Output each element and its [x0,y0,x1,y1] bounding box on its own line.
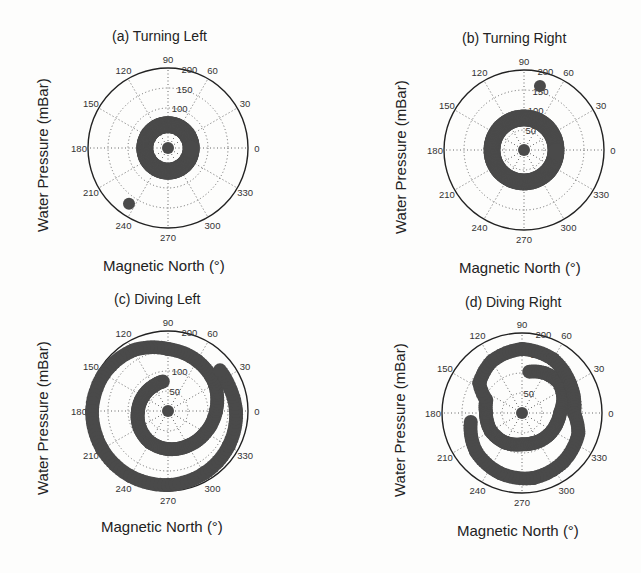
svg-text:200: 200 [535,329,551,340]
svg-text:90: 90 [163,54,174,65]
svg-text:180: 180 [425,408,441,419]
panel-d: (d) Diving Right Water Pressure (mBar) M… [320,285,640,571]
svg-text:90: 90 [163,317,174,328]
svg-text:30: 30 [594,363,605,374]
svg-text:210: 210 [83,187,99,198]
polar-plot-d: 0306090120150180210240270300330501001502… [320,285,641,573]
svg-text:60: 60 [207,65,218,76]
svg-text:330: 330 [593,189,609,200]
svg-text:270: 270 [516,234,532,245]
svg-text:300: 300 [559,485,575,496]
data-points [123,116,200,209]
svg-text:60: 60 [563,67,574,78]
svg-text:150: 150 [83,98,99,109]
svg-text:30: 30 [240,98,251,109]
svg-text:120: 120 [116,328,132,339]
svg-text:0: 0 [254,143,259,154]
polar-plot-b: 0306090120150180210240270300330501001502… [320,0,641,286]
svg-text:330: 330 [237,187,253,198]
svg-text:150: 150 [177,84,193,95]
svg-text:100: 100 [172,103,188,114]
svg-text:100: 100 [172,366,188,377]
panel-a: (a) Turning Left Water Pressure (mBar) M… [0,0,320,286]
svg-text:120: 120 [470,330,486,341]
polar-plot-c: 0306090120150180210240270300330501001502… [0,285,320,573]
svg-text:150: 150 [439,100,455,111]
polar-plot-a: 0306090120150180210240270300330501001502… [0,0,320,286]
svg-text:300: 300 [205,483,221,494]
svg-text:330: 330 [237,450,253,461]
svg-text:180: 180 [427,145,443,156]
svg-text:60: 60 [207,328,218,339]
svg-text:240: 240 [470,485,486,496]
svg-text:270: 270 [160,495,176,506]
svg-text:270: 270 [160,232,176,243]
svg-text:180: 180 [71,143,87,154]
svg-text:180: 180 [71,406,87,417]
svg-text:120: 120 [472,67,488,78]
svg-text:210: 210 [437,452,453,463]
svg-text:0: 0 [608,408,613,419]
svg-text:200: 200 [181,327,197,338]
svg-text:150: 150 [437,363,453,374]
svg-text:200: 200 [537,66,553,77]
svg-text:30: 30 [240,361,251,372]
svg-text:50: 50 [524,388,535,399]
radial-tick-labels: 50100150200 [524,329,552,398]
svg-text:0: 0 [254,406,259,417]
svg-text:210: 210 [439,189,455,200]
svg-text:120: 120 [116,65,132,76]
panel-c: (c) Diving Left Water Pressure (mBar) Ma… [0,285,320,571]
panel-b: (b) Turning Right Water Pressure (mBar) … [320,0,640,286]
svg-text:30: 30 [596,100,607,111]
svg-text:270: 270 [514,497,530,508]
svg-text:240: 240 [116,220,132,231]
svg-text:150: 150 [83,361,99,372]
svg-text:50: 50 [170,386,181,397]
svg-text:240: 240 [116,483,132,494]
svg-text:60: 60 [561,330,572,341]
svg-text:330: 330 [591,452,607,463]
svg-text:200: 200 [181,64,197,75]
svg-text:240: 240 [472,222,488,233]
svg-text:300: 300 [561,222,577,233]
data-points [463,342,585,485]
svg-text:0: 0 [610,145,615,156]
svg-text:90: 90 [519,56,530,67]
svg-text:90: 90 [517,319,528,330]
svg-text:300: 300 [205,220,221,231]
